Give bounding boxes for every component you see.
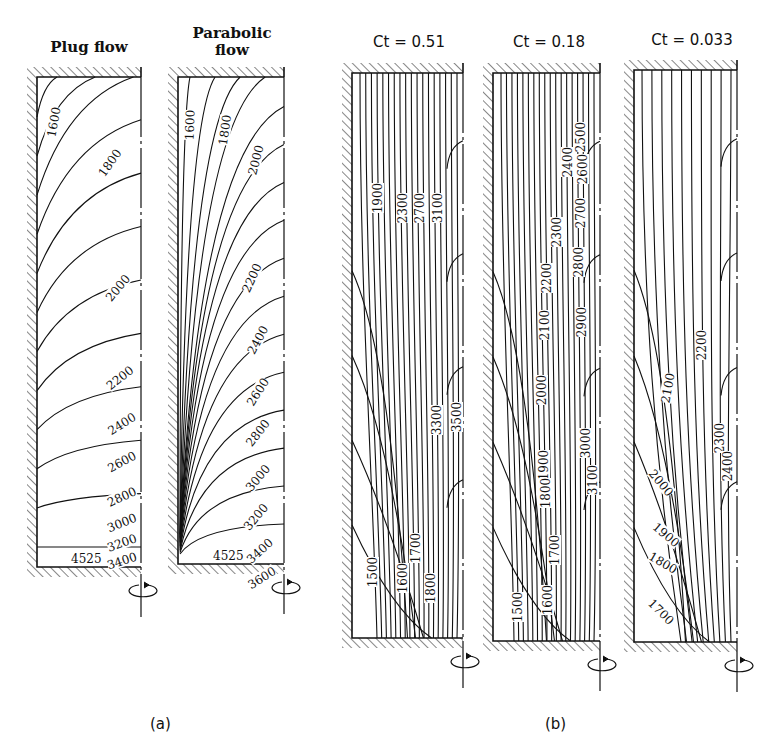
contour-label: 3200 <box>241 501 271 533</box>
contour-label: 1900 <box>371 183 385 214</box>
contour-label: 2300 <box>396 193 410 224</box>
contour-label: 1800 <box>424 573 438 604</box>
contour-label: 1600 <box>396 563 410 594</box>
contour-label: 2800 <box>243 417 273 450</box>
contour-label: 2400 <box>721 451 735 482</box>
contour-label: 2200 <box>239 261 265 295</box>
contour-label: 2000 <box>535 375 549 406</box>
contour-label: 1700 <box>409 533 423 564</box>
contour-label: 2800 <box>572 247 586 278</box>
part-a-label: (a) <box>150 715 171 733</box>
contour-label: 3100 <box>586 465 600 496</box>
rotation-arrow-icon <box>725 660 753 672</box>
rotation-arrow-icon <box>588 659 616 671</box>
contour-label: 3400 <box>244 536 276 567</box>
contour-label: 3000 <box>579 428 593 459</box>
contour-label: 2800 <box>105 484 139 510</box>
contour-label: 2400 <box>561 147 575 178</box>
rotation-axis-ct051 <box>451 73 479 688</box>
contour-label: 2100 <box>538 310 552 341</box>
contour-label: 2600 <box>105 449 139 476</box>
contour-label: 2700 <box>574 198 588 229</box>
contour-label: 2200 <box>540 263 554 294</box>
contour-label: 2500 <box>574 122 588 153</box>
contour-diagram: 4525160018002000220024002600280030003200… <box>0 0 775 746</box>
contour-figure: Plug flow Parabolic flow Ct = 0.51 Ct = … <box>0 0 775 746</box>
contour-label: 1600 <box>44 106 63 139</box>
contour-label: 1700 <box>548 535 562 566</box>
contours-ct051 <box>352 73 463 638</box>
part-b-label: (b) <box>545 715 566 733</box>
contour-label: 2100 <box>658 372 677 405</box>
contour-label: 2900 <box>575 307 589 338</box>
contour-label: 3300 <box>430 405 444 436</box>
contour-label: 1600 <box>541 585 555 616</box>
contour-label: 1500 <box>366 557 380 588</box>
contour-label: 1600 <box>182 109 197 140</box>
rotation-arrow-icon <box>129 585 157 597</box>
rotation-arrow-icon <box>272 582 300 594</box>
contour-label: 1500 <box>511 592 525 623</box>
contour-label: 2400 <box>105 410 138 438</box>
contour-label: 2600 <box>244 375 272 408</box>
contour-label: 3100 <box>431 193 445 224</box>
bottom-wall-value: 4525 <box>71 552 102 566</box>
contour-label: 2200 <box>695 330 709 361</box>
contour-label: 2700 <box>413 193 427 224</box>
contour-label: 3500 <box>450 402 464 433</box>
contour-label: 2600 <box>576 154 590 185</box>
contour-label: 2000 <box>103 272 133 304</box>
contour-label: 1900 <box>537 450 551 481</box>
rotation-axis-ct018 <box>588 73 616 691</box>
contour-label: 2300 <box>550 217 564 248</box>
contour-label: 2300 <box>713 423 727 454</box>
contours-plug <box>37 77 141 547</box>
contour-label: 1800 <box>96 146 125 179</box>
rotation-arrow-icon <box>451 656 479 668</box>
contour-label: 1800 <box>539 478 553 509</box>
rotation-axis-parabolic <box>272 77 300 614</box>
bottom-wall-value: 4525 <box>213 549 244 563</box>
contours-parabolic <box>180 77 284 554</box>
contour-label: 1800 <box>216 114 234 146</box>
rotation-axes <box>129 70 753 692</box>
